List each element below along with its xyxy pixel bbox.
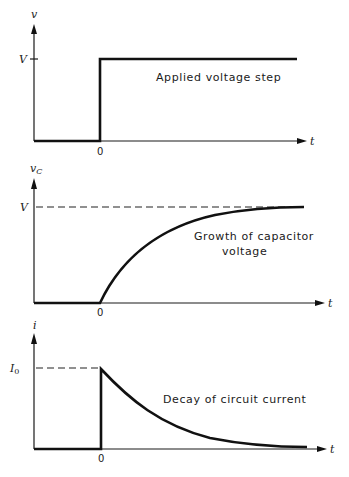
y-axis-arrow-icon	[31, 24, 37, 34]
panel-applied-voltage: v t V 0 Applied voltage step	[19, 8, 315, 157]
x-axis-arrow-icon	[297, 138, 307, 144]
level-label: V	[20, 201, 29, 214]
caption-line-1: Growth of capacitor	[194, 230, 314, 243]
panel-capacitor-voltage: vC t V 0 Growth of capacitor voltage	[20, 162, 333, 318]
origin-label: 0	[97, 307, 103, 318]
x-axis-arrow-icon	[315, 300, 325, 306]
x-axis-label: t	[310, 135, 315, 148]
y-axis-label: v	[31, 8, 38, 21]
level-label: I0	[9, 362, 19, 376]
y-axis-label: vC	[30, 162, 42, 176]
origin-label: 0	[98, 453, 104, 464]
current-decay-curve	[34, 369, 307, 449]
x-axis-label: t	[328, 297, 333, 310]
caption: Decay of circuit current	[163, 393, 307, 406]
y-axis-arrow-icon	[31, 178, 37, 189]
y-axis-arrow-icon	[31, 333, 37, 344]
rc-transient-diagram: v t V 0 Applied voltage step vC t V 0 Gr…	[0, 0, 349, 477]
level-label: V	[19, 53, 28, 66]
origin-label: 0	[97, 146, 103, 157]
x-axis-label: t	[330, 443, 335, 456]
x-axis-arrow-icon	[317, 446, 327, 452]
caption-line-2: voltage	[222, 245, 267, 258]
y-axis-label: i	[33, 319, 37, 332]
panel-circuit-current: i t I0 0 Decay of circuit current	[9, 319, 335, 464]
caption: Applied voltage step	[156, 71, 281, 84]
